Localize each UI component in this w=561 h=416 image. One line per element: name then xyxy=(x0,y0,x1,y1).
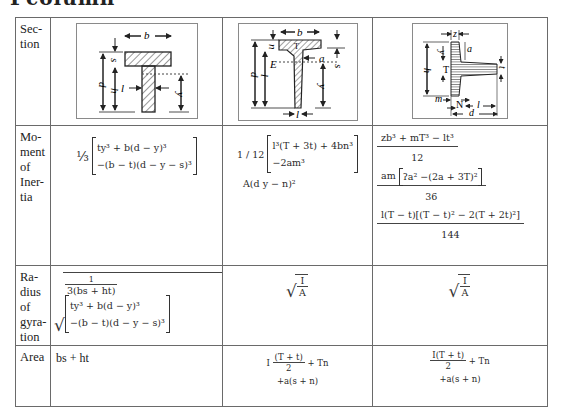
area-3-line2: +a(s + n) xyxy=(373,371,547,387)
svg-text:E: E xyxy=(269,58,277,70)
radius-3-den: A xyxy=(460,287,471,298)
label-section-text: Sec- tion xyxy=(20,22,42,51)
area-2-line2: +a(s + n) xyxy=(223,373,372,389)
moment-2-line3: A(d y − n)² xyxy=(223,176,372,192)
svg-text:l: l xyxy=(259,74,271,77)
moment-1-line1: ty³ + b(d − y)³ xyxy=(97,139,192,156)
moment-3-term3-den: 144 xyxy=(377,227,524,243)
svg-text:y: y xyxy=(317,83,329,89)
svg-text:m: m xyxy=(435,93,442,104)
svg-text:s: s xyxy=(109,58,121,62)
section-diagram-cell-2: b d l E n a s xyxy=(223,18,373,126)
label-section: Sec- tion xyxy=(16,18,51,126)
moment-3-term1-num: zb³ + mT³ − lt³ xyxy=(377,130,458,147)
section-diagram-cell-3: z h y T a t m xyxy=(373,18,548,126)
heading-fragment: Pcolumn xyxy=(10,0,115,10)
area-2-lead: I xyxy=(267,358,270,368)
rolled-t-section-diagram: z h y T a t m xyxy=(412,23,508,119)
area-3-num: I(T + t) xyxy=(430,350,466,361)
moment-2-line2: −2am³ xyxy=(272,154,353,171)
svg-text:l: l xyxy=(296,108,299,120)
svg-text:N: N xyxy=(456,99,463,110)
svg-text:a: a xyxy=(467,43,472,54)
moment-3-term2-prefix: am xyxy=(381,170,396,181)
row-area: Area bs + ht I (T + t) 2 + Tn +a(s + n) … xyxy=(16,346,548,407)
area-formula-2: I (T + t) 2 + Tn +a(s + n) xyxy=(223,346,373,407)
dim-b: b xyxy=(144,29,150,41)
label-radius-text: Ra- dius of gyra- tion xyxy=(20,270,46,344)
area-formula-3: I(T + t) 2 + Tn +a(s + n) xyxy=(373,346,548,407)
moment-3-term3-num: l(T − t)[(T − t)² − 2(T + 2t)²] xyxy=(377,207,524,224)
svg-text:t: t xyxy=(497,66,507,69)
radius-2-den: A xyxy=(297,287,308,298)
svg-text:l: l xyxy=(121,82,124,94)
tapered-t-section-diagram: b d l E n a s xyxy=(238,23,358,121)
svg-text:d: d xyxy=(97,82,109,88)
svg-text:s: s xyxy=(333,64,345,68)
svg-text:y: y xyxy=(175,91,187,97)
moment-formula-2: 1 / 12 l³(T + 3t) + 4bn³ −2am³ A(d y − n… xyxy=(223,126,373,266)
radius-3-num: I xyxy=(460,275,471,287)
svg-text:h: h xyxy=(109,88,121,94)
svg-text:d: d xyxy=(469,107,475,118)
radius-formula-2: I A xyxy=(223,266,373,346)
moment-1-prefix: ⅓ xyxy=(76,149,89,164)
radius-2-num: I xyxy=(297,275,308,287)
moment-3-term1-den: 12 xyxy=(377,150,458,166)
moment-3-term2-inner: ʔa² −(2a + 3T)² xyxy=(403,171,478,182)
moment-2-line1: l³(T + 3t) + 4bn³ xyxy=(272,137,353,154)
row-section: Sec- tion b xyxy=(16,18,548,126)
label-area: Area xyxy=(16,346,51,407)
svg-text:n: n xyxy=(267,44,279,50)
radius-1-num: 1 xyxy=(65,275,117,285)
area-3-den: 2 xyxy=(430,361,466,371)
area-2-num: (T + t) xyxy=(273,352,305,363)
radius-formula-1: 1 3(bs + ht) ty³ + b(d − y)³ −(b − t)(d … xyxy=(51,266,223,346)
radius-1-line2: −(b − t)(d − y − s)³ xyxy=(70,314,165,331)
svg-text:T: T xyxy=(294,42,299,51)
radius-formula-3: I A xyxy=(373,266,548,346)
svg-text:T: T xyxy=(443,64,449,75)
svg-text:z: z xyxy=(452,28,457,39)
row-radius-of-gyration: Ra- dius of gyra- tion 1 3(bs + ht) ty³ … xyxy=(16,266,548,346)
section-properties-table: Sec- tion b xyxy=(15,17,548,407)
moment-2-prefix: 1 / 12 xyxy=(237,149,264,160)
moment-1-line2: −(b − t)(d − y − s)³ xyxy=(97,156,192,173)
area-formula-1: bs + ht xyxy=(51,346,223,407)
svg-text:b: b xyxy=(297,26,303,38)
t-section-diagram: b d h s l xyxy=(76,23,198,119)
label-radius: Ra- dius of gyra- tion xyxy=(16,266,51,346)
moment-formula-1: ⅓ ty³ + b(d − y)³ −(b − t)(d − y − s)³ xyxy=(51,126,223,266)
label-area-text: Area xyxy=(20,350,44,364)
radius-1-line1: ty³ + b(d − y)³ xyxy=(70,297,165,314)
area-3-tail: + Tn xyxy=(469,356,490,366)
label-moment-text: Mo- ment of Iner- tia xyxy=(20,130,45,204)
svg-text:y: y xyxy=(437,49,448,55)
label-moment: Mo- ment of Iner- tia xyxy=(16,126,51,266)
section-diagram-cell-1: b d h s l xyxy=(51,18,223,126)
area-2-tail: + Tn xyxy=(308,358,329,368)
row-moment-of-inertia: Mo- ment of Iner- tia ⅓ ty³ + b(d − y)³ … xyxy=(16,126,548,266)
svg-text:l: l xyxy=(477,99,480,110)
svg-text:h: h xyxy=(422,68,433,73)
area-1-value: bs + ht xyxy=(56,351,89,365)
moment-formula-3: zb³ + mT³ − lt³ 12 am ʔa² −(2a + 3T)² 36… xyxy=(373,126,548,266)
moment-3-term2-den: 36 xyxy=(377,189,486,205)
area-2-den: 2 xyxy=(273,363,305,373)
radius-1-den: 3(bs + ht) xyxy=(65,285,117,296)
